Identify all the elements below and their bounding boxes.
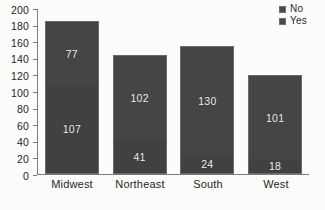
- y-tick-180: 180: [33, 26, 37, 27]
- bar-segment-no-south[interactable]: 130: [180, 46, 234, 154]
- y-tick-20: 20: [33, 158, 37, 159]
- bar-series-container: 77 107 102 41: [38, 9, 309, 174]
- y-tick-label-160: 160: [11, 37, 29, 49]
- y-tick-label-60: 60: [17, 120, 29, 132]
- y-tick-label-80: 80: [17, 103, 29, 115]
- legend-label-yes: Yes: [290, 16, 307, 26]
- y-tick-80: 80: [33, 109, 37, 110]
- y-tick-100: 100: [33, 92, 37, 93]
- bar-value-no-midwest: 77: [66, 48, 78, 60]
- bar-segment-yes-west[interactable]: 18: [248, 159, 302, 174]
- bar-segment-yes-midwest[interactable]: 107: [45, 85, 99, 174]
- bar-stack-northeast[interactable]: 102 41: [113, 55, 167, 174]
- bar-segment-yes-northeast[interactable]: 41: [113, 140, 167, 174]
- category-axis: Midwest Northeast South West: [38, 178, 310, 190]
- chart-legend: No Yes: [279, 4, 307, 26]
- y-tick-120: 120: [33, 75, 37, 76]
- y-tick-40: 40: [33, 142, 37, 143]
- category-label-south: South: [174, 178, 242, 190]
- x-axis-line: [37, 174, 309, 175]
- y-tick-label-120: 120: [11, 70, 29, 82]
- legend-label-no: No: [290, 4, 303, 14]
- bar-segment-no-northeast[interactable]: 102: [113, 55, 167, 140]
- y-tick-label-180: 180: [11, 20, 29, 32]
- bar-value-no-south: 130: [198, 95, 216, 107]
- bar-group-northeast: 102 41: [106, 9, 174, 174]
- bar-group-west: 101 18: [241, 9, 309, 174]
- y-tick-label-140: 140: [11, 53, 29, 65]
- y-tick-0: 0: [33, 175, 37, 176]
- y-tick-label-40: 40: [17, 136, 29, 148]
- bar-stack-west[interactable]: 101 18: [248, 75, 302, 174]
- category-label-northeast: Northeast: [106, 178, 174, 190]
- y-tick-label-20: 20: [17, 153, 29, 165]
- stacked-bar-chart: No Yes 200 180 160 140 120 100 80 60 40 …: [0, 0, 325, 210]
- bar-group-south: 130 24: [174, 9, 242, 174]
- legend-entry-no[interactable]: No: [279, 4, 307, 14]
- y-tick-label-0: 0: [23, 170, 29, 182]
- y-tick-label-200: 200: [11, 4, 29, 16]
- category-label-midwest: Midwest: [38, 178, 106, 190]
- bar-value-yes-south: 24: [201, 158, 213, 170]
- bar-segment-no-west[interactable]: 101: [248, 75, 302, 159]
- bar-stack-midwest[interactable]: 77 107: [45, 21, 99, 174]
- legend-entry-yes[interactable]: Yes: [279, 16, 307, 26]
- y-tick-160: 160: [33, 42, 37, 43]
- legend-swatch-yes-icon: [279, 18, 286, 25]
- bar-segment-no-midwest[interactable]: 77: [45, 21, 99, 85]
- plot-area: 200 180 160 140 120 100 80 60 40 20 0 77…: [37, 9, 309, 175]
- bar-value-yes-midwest: 107: [63, 123, 81, 135]
- bar-segment-yes-south[interactable]: 24: [180, 154, 234, 174]
- bar-value-yes-northeast: 41: [134, 151, 146, 163]
- category-label-west: West: [242, 178, 310, 190]
- y-tick-200: 200: [33, 9, 37, 10]
- legend-swatch-no-icon: [279, 6, 286, 13]
- y-tick-140: 140: [33, 59, 37, 60]
- bar-group-midwest: 77 107: [38, 9, 106, 174]
- bar-stack-south[interactable]: 130 24: [180, 46, 234, 174]
- bar-value-no-northeast: 102: [131, 92, 149, 104]
- y-tick-60: 60: [33, 125, 37, 126]
- bar-value-no-west: 101: [266, 112, 284, 124]
- bar-value-yes-west: 18: [269, 160, 281, 172]
- y-tick-label-100: 100: [11, 87, 29, 99]
